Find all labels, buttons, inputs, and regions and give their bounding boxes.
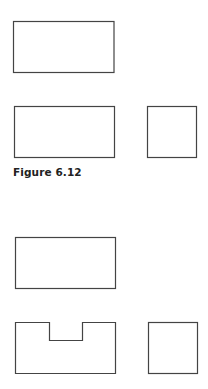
fig2-top-view [16, 238, 116, 289]
figure-caption: Figure 6.12 [13, 166, 82, 178]
fig1-side-view [148, 107, 197, 158]
fig1-top-view [14, 22, 115, 73]
fig2-front-view-notched [16, 323, 116, 374]
fig2-side-view [149, 323, 198, 374]
orthographic-figures [0, 0, 208, 389]
fig1-front-view [15, 107, 115, 158]
